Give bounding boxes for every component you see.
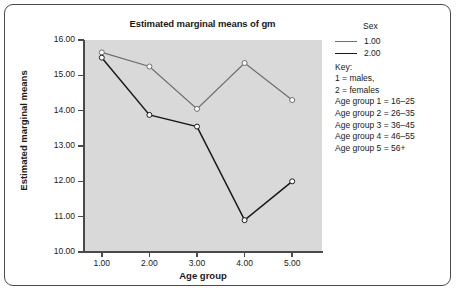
legend-entry: 2.00 bbox=[335, 48, 457, 60]
data-point-marker bbox=[147, 112, 152, 117]
series-line bbox=[102, 58, 292, 221]
legend-entry-label: 1.00 bbox=[364, 36, 381, 48]
series-line bbox=[102, 52, 292, 109]
plot-area bbox=[84, 40, 322, 252]
y-tick bbox=[78, 181, 84, 183]
x-tick-label: 4.00 bbox=[223, 258, 267, 268]
x-tick bbox=[101, 251, 103, 257]
data-point-marker bbox=[99, 55, 104, 60]
x-tick bbox=[196, 251, 198, 257]
y-tick bbox=[78, 216, 84, 218]
x-tick-label: 2.00 bbox=[127, 258, 171, 268]
legend-line-swatch bbox=[335, 53, 357, 55]
x-tick bbox=[149, 251, 151, 257]
legend-key-line: 1 = males, bbox=[335, 73, 457, 85]
legend-key-line: Age group 3 = 36–45 bbox=[335, 120, 457, 132]
legend-key-line: Age group 2 = 26–35 bbox=[335, 108, 457, 120]
legend: Sex 1.002.00 Key: 1 = males,2 = femalesA… bbox=[335, 21, 457, 154]
x-tick-label: 1.00 bbox=[80, 258, 124, 268]
series-1.00 bbox=[99, 50, 294, 112]
data-point-marker bbox=[195, 106, 200, 111]
legend-key-line: Age group 1 = 16–25 bbox=[335, 96, 457, 108]
x-tick-label: 3.00 bbox=[175, 258, 219, 268]
series-2.00 bbox=[99, 55, 294, 223]
x-tick bbox=[291, 251, 293, 257]
data-point-marker bbox=[290, 179, 295, 184]
legend-entry-label: 2.00 bbox=[364, 48, 381, 60]
chart-plot-svg bbox=[84, 40, 322, 252]
legend-key-line: 2 = females bbox=[335, 85, 457, 97]
y-tick-label: 15.00 bbox=[35, 69, 75, 79]
y-tick bbox=[78, 75, 84, 77]
data-point-marker bbox=[195, 124, 200, 129]
y-tick-label: 14.00 bbox=[35, 105, 75, 115]
legend-key-lines: 1 = males,2 = femalesAge group 1 = 16–25… bbox=[335, 73, 457, 154]
data-point-marker bbox=[242, 60, 247, 65]
figure-frame: Estimated marginal means of gm Estimated… bbox=[4, 4, 451, 286]
y-axis-title: Estimated marginal means bbox=[18, 51, 29, 211]
x-tick bbox=[244, 251, 246, 257]
legend-key: Key: 1 = males,2 = femalesAge group 1 = … bbox=[335, 62, 457, 155]
legend-entry: 1.00 bbox=[335, 36, 457, 48]
y-tick-label: 12.00 bbox=[35, 175, 75, 185]
y-tick-label: 10.00 bbox=[35, 246, 75, 256]
legend-title: Sex bbox=[363, 21, 457, 33]
chart-title: Estimated marginal means of gm bbox=[80, 18, 325, 29]
y-tick bbox=[78, 39, 84, 41]
x-axis-line bbox=[83, 251, 323, 253]
legend-key-heading: Key: bbox=[335, 62, 457, 74]
y-tick bbox=[78, 110, 84, 112]
legend-key-line: Age group 4 = 46–55 bbox=[335, 131, 457, 143]
y-tick-label: 11.00 bbox=[35, 211, 75, 221]
data-point-marker bbox=[147, 64, 152, 69]
x-axis-title: Age group bbox=[84, 270, 322, 281]
legend-line-swatch bbox=[335, 41, 357, 43]
legend-entries: 1.002.00 bbox=[335, 36, 457, 60]
data-point-marker bbox=[242, 218, 247, 223]
legend-key-line: Age group 5 = 56+ bbox=[335, 143, 457, 155]
data-point-marker bbox=[290, 98, 295, 103]
y-tick bbox=[78, 251, 84, 253]
y-tick-label: 16.00 bbox=[35, 34, 75, 44]
y-tick bbox=[78, 145, 84, 147]
y-tick-label: 13.00 bbox=[35, 140, 75, 150]
x-tick-label: 5.00 bbox=[270, 258, 314, 268]
data-point-marker bbox=[99, 50, 104, 55]
